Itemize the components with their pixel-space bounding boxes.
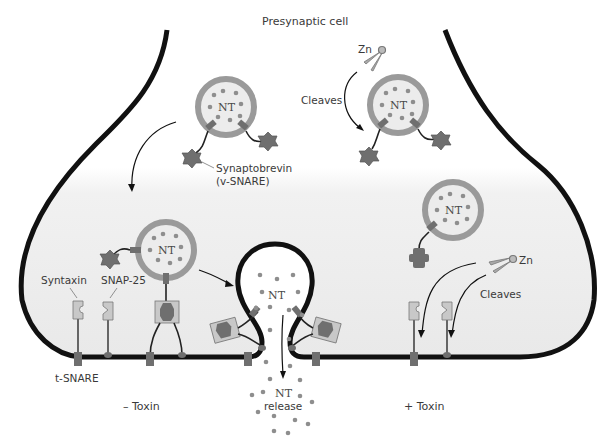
- label-plus-toxin: + Toxin: [404, 400, 445, 413]
- nt-label: NT: [158, 244, 176, 257]
- nt-label: NT: [390, 99, 408, 112]
- label-syntaxin: Syntaxin: [41, 274, 87, 286]
- snare-toxin-diagram: Presynaptic cell NT Synaptobrevin (v-SNA…: [0, 0, 609, 444]
- label-nt-release-2: release: [264, 400, 302, 412]
- label-cleaves-right: Cleaves: [480, 288, 521, 300]
- label-cleaves-top: Cleaves: [301, 94, 342, 106]
- label-zn-top: Zn: [358, 43, 372, 55]
- nt-label: NT: [445, 204, 463, 217]
- label-nt-pore: NT: [268, 289, 286, 302]
- label-v-snare: (v-SNARE): [216, 175, 270, 187]
- label-zn-right: Zn: [519, 254, 533, 266]
- title-presynaptic-cell: Presynaptic cell: [262, 15, 348, 28]
- label-synaptobrevin: Synaptobrevin: [216, 162, 292, 174]
- label-minus-toxin: – Toxin: [123, 400, 160, 413]
- label-nt-release-1: NT: [275, 387, 293, 400]
- arrow-nt-release: [282, 315, 283, 375]
- nt-label: NT: [218, 101, 236, 114]
- label-snap25: SNAP-25: [101, 274, 146, 286]
- label-t-snare: t-SNARE: [55, 372, 99, 384]
